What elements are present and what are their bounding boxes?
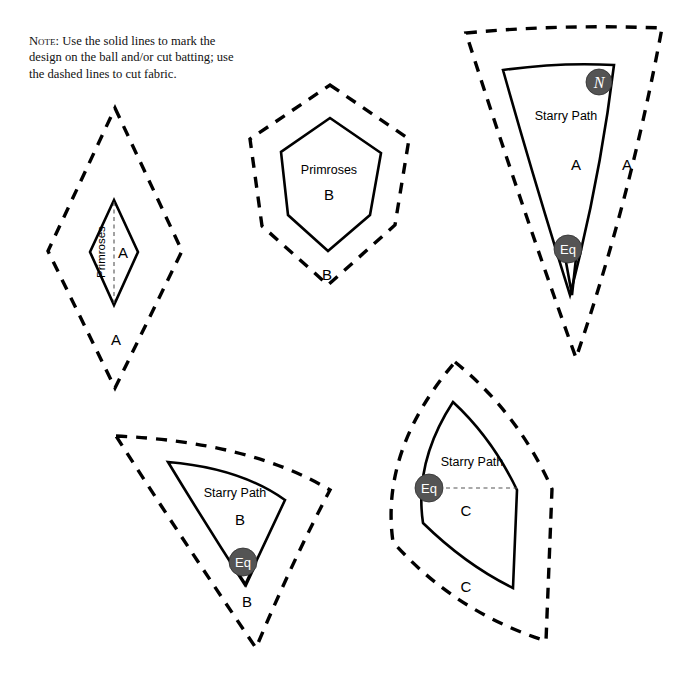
design-line-starry-path-b	[168, 462, 285, 585]
equator-badge-starry-path-b[interactable]: Eq	[229, 548, 257, 576]
cut-line-primroses-b	[250, 85, 409, 285]
cut-line-starry-path-a	[466, 27, 662, 358]
template-primroses-b[interactable]: Primroses B B	[250, 85, 409, 285]
pattern-template-canvas: Primroses A A Primroses B B Starry Path …	[0, 0, 684, 682]
equator-badge-starry-path-a[interactable]: Eq	[554, 235, 582, 263]
piece-label-outer-starry-path-b: B	[242, 593, 252, 610]
pattern-name-starry-path-a: Starry Path	[535, 109, 598, 123]
template-starry-path-b[interactable]: Starry Path B B Eq	[116, 436, 330, 648]
pattern-sheet: Note: Use the solid lines to mark the de…	[0, 0, 684, 682]
pattern-name-primroses-b: Primroses	[301, 163, 357, 177]
piece-label-inner-starry-path-a: A	[571, 156, 581, 173]
piece-label-inner-starry-path-b: B	[235, 511, 245, 528]
north-pole-badge[interactable]: N	[586, 69, 612, 95]
equator-badge-label-c: Eq	[421, 481, 437, 496]
equator-badge-label-b: Eq	[235, 555, 251, 570]
pattern-name-starry-path-b: Starry Path	[204, 486, 267, 500]
piece-label-outer-starry-path-a: A	[622, 156, 632, 173]
piece-label-outer-primroses-b: B	[322, 266, 332, 283]
equator-badge-label-a: Eq	[560, 242, 576, 257]
template-starry-path-a[interactable]: Starry Path A A N Eq	[466, 27, 662, 358]
pattern-name-primroses-a: Primroses	[95, 226, 107, 278]
piece-label-inner-primroses-a: A	[118, 244, 128, 261]
template-primroses-a[interactable]: Primroses A A	[48, 108, 182, 388]
piece-label-outer-primroses-a: A	[111, 331, 121, 348]
pattern-name-starry-path-c: Starry Path	[441, 455, 504, 469]
template-starry-path-c[interactable]: Starry Path C C Eq	[391, 362, 552, 641]
design-line-primroses-b	[281, 118, 381, 251]
design-line-starry-path-a	[503, 64, 614, 295]
cut-line-starry-path-b	[116, 436, 330, 648]
piece-label-inner-primroses-b: B	[324, 186, 334, 203]
equator-badge-starry-path-c[interactable]: Eq	[415, 474, 443, 502]
piece-label-inner-starry-path-c: C	[461, 502, 472, 519]
cut-line-starry-path-c	[391, 362, 552, 641]
piece-label-outer-starry-path-c: C	[461, 578, 472, 595]
north-pole-badge-label: N	[593, 74, 606, 91]
